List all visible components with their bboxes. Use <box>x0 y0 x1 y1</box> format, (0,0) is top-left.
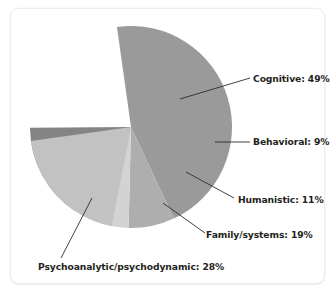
pie-label-family-systems: Family/systems: 19% <box>206 230 313 239</box>
pie-chart-figure <box>0 0 335 300</box>
pie-label-behavioral: Behavioral: 9% <box>253 137 329 146</box>
pie-label-humanistic: Humanistic: 11% <box>238 195 324 204</box>
pie-label-psychoanalytic: Psychoanalytic/psychodynamic: 28% <box>38 262 224 271</box>
pie-slices <box>30 26 232 228</box>
pie-label-cognitive: Cognitive: 49% <box>253 74 330 83</box>
pie-chart-screenshot: Cognitive: 49% Behavioral: 9% Humanistic… <box>0 0 335 300</box>
